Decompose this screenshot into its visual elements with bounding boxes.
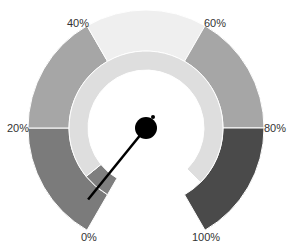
tick-label-0: 0% [81, 231, 97, 243]
tick-label-60: 60% [204, 17, 226, 29]
needle-pivot [135, 117, 157, 139]
tick-label-100: 100% [192, 231, 220, 243]
tick-label-20: 20% [7, 122, 29, 134]
gauge-needle [88, 115, 157, 199]
tick-label-80: 80% [264, 122, 286, 134]
needle-pivot-nub [151, 115, 155, 119]
tick-label-40: 40% [67, 17, 89, 29]
gauge-chart [0, 0, 290, 249]
